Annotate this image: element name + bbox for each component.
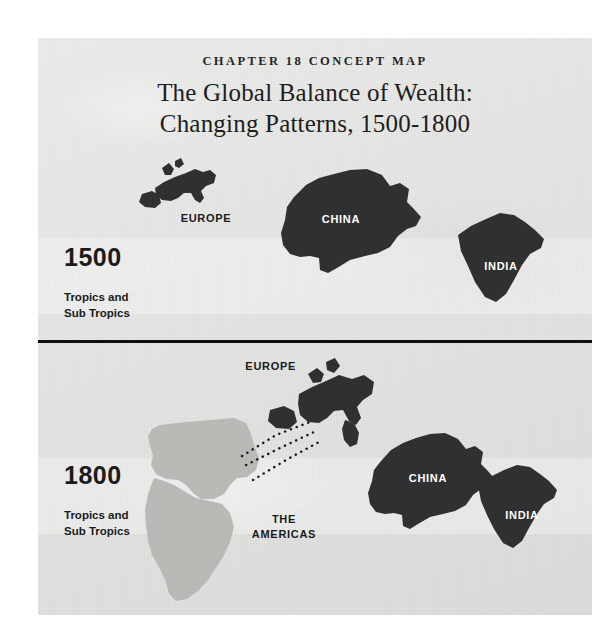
- era-divider: [38, 340, 592, 343]
- flow-arrows-americas-to-europe: [242, 422, 319, 480]
- landmass-india-1500: [458, 213, 544, 302]
- era-year-1500: 1500: [64, 243, 122, 272]
- page-title-line-1: The Global Balance of Wealth:: [38, 78, 592, 109]
- region-label-europe-1500: EUROPE: [171, 212, 241, 224]
- region-label-india-1800: INDIA: [487, 509, 557, 521]
- page-title-line-2: Changing Patterns, 1500-1800: [38, 109, 592, 140]
- region-label-india-1500: INDIA: [466, 260, 536, 272]
- region-label-americas-1800: THE AMERICAS: [236, 512, 332, 542]
- concept-map-page: CHAPTER 18 CONCEPT MAP The Global Balanc…: [0, 0, 604, 633]
- landmass-europe-1500: [139, 158, 216, 208]
- era-subtitle-1800: Tropics and Sub Tropics: [64, 508, 130, 539]
- concept-map-card: CHAPTER 18 CONCEPT MAP The Global Balanc…: [38, 38, 592, 615]
- chapter-eyebrow: CHAPTER 18 CONCEPT MAP: [38, 54, 592, 69]
- era-panel-1800: 1800 Tropics and Sub Tropics: [38, 352, 592, 615]
- landmass-india-1800: [478, 465, 557, 548]
- region-label-europe-1800: EUROPE: [206, 360, 296, 372]
- landmass-americas-1800: [145, 418, 259, 601]
- page-header: CHAPTER 18 CONCEPT MAP The Global Balanc…: [38, 54, 592, 139]
- era-year-1800: 1800: [64, 461, 122, 490]
- region-label-china-1500: CHINA: [306, 213, 376, 225]
- era-subtitle-1500: Tropics and Sub Tropics: [64, 290, 130, 321]
- region-label-china-1800: CHINA: [393, 472, 463, 484]
- era-panel-1500: 1500 Tropics and Sub Tropics: [38, 150, 592, 340]
